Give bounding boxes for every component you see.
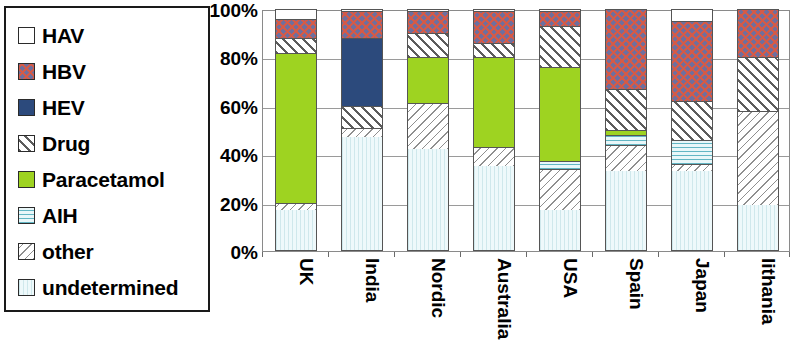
x-axis-label-lithania: lithania: [736, 258, 778, 325]
segment-australia-para[interactable]: [473, 57, 515, 147]
x-axis-label-uk: UK: [274, 258, 316, 285]
diagonal-hatch-square-icon: [18, 135, 35, 152]
segment-lithania-hbv[interactable]: [737, 9, 779, 57]
segment-uk-para[interactable]: [275, 53, 317, 203]
segment-spain-drug[interactable]: [605, 89, 647, 130]
segment-india-undetermined[interactable]: [341, 137, 383, 251]
segment-australia-drug[interactable]: [473, 43, 515, 58]
segment-usa-undetermined[interactable]: [539, 210, 581, 251]
segment-australia-other[interactable]: [473, 147, 515, 166]
segment-usa-drug[interactable]: [539, 26, 581, 67]
cyan-horizontal-lines-square-icon: [18, 207, 35, 224]
segment-uk-hav[interactable]: [275, 9, 317, 19]
segment-spain-undetermined[interactable]: [605, 171, 647, 251]
gray-diagonal-square-icon: [18, 243, 35, 260]
segment-japan-aih[interactable]: [671, 140, 713, 164]
segment-india-hbv[interactable]: [341, 11, 383, 38]
segment-india-other[interactable]: [341, 128, 383, 138]
pink-crosshatch-square-icon: [18, 63, 35, 80]
x-axis-label-india: India: [340, 258, 382, 302]
x-axis-label-spain: Spain: [604, 258, 646, 310]
segment-japan-other[interactable]: [671, 164, 713, 171]
x-tick-spain: [592, 252, 593, 257]
legend-label-paracetamol: Paracetamol: [42, 169, 165, 190]
segment-lithania-undetermined[interactable]: [737, 205, 779, 251]
segment-nordic-other[interactable]: [407, 103, 449, 149]
segment-usa-para[interactable]: [539, 67, 581, 161]
legend-label-hbv: HBV: [42, 61, 86, 82]
y-axis-tick-labels: 0%20%40%60%80%100%: [210, 0, 262, 252]
white-square-icon: [18, 27, 35, 44]
bar-lithania[interactable]: [737, 11, 779, 251]
segment-australia-undetermined[interactable]: [473, 166, 515, 251]
segment-uk-other[interactable]: [275, 203, 317, 210]
green-solid-square-icon: [18, 171, 35, 188]
segment-uk-undetermined[interactable]: [275, 210, 317, 251]
legend-item-undetermined: undetermined: [18, 269, 208, 305]
segment-japan-drug[interactable]: [671, 101, 713, 140]
bar-nordic[interactable]: [407, 11, 449, 251]
chart-legend: HAV HBV HEV Drug Paracetamol AIH other u…: [4, 6, 210, 312]
x-tick-nordic: [394, 252, 395, 257]
segment-spain-para[interactable]: [605, 130, 647, 135]
segment-india-drug[interactable]: [341, 106, 383, 128]
bar-australia[interactable]: [473, 11, 515, 251]
bar-top-edge-nordic: [407, 9, 449, 10]
segment-lithania-drug[interactable]: [737, 57, 779, 110]
bar-usa[interactable]: [539, 11, 581, 251]
legend-item-aih: AIH: [18, 197, 208, 233]
legend-item-other: other: [18, 233, 208, 269]
bar-top-edge-lithania: [737, 9, 779, 10]
bar-top-edge-spain: [605, 9, 647, 10]
segment-spain-aih[interactable]: [605, 135, 647, 145]
segment-usa-hbv[interactable]: [539, 11, 581, 26]
segment-spain-hbv[interactable]: [605, 9, 647, 89]
segment-spain-other[interactable]: [605, 145, 647, 172]
segment-nordic-drug[interactable]: [407, 33, 449, 57]
segment-lithania-other[interactable]: [737, 111, 779, 205]
segment-nordic-undetermined[interactable]: [407, 149, 449, 251]
segment-australia-hbv[interactable]: [473, 11, 515, 42]
x-tick-uk: [262, 252, 263, 257]
bar-uk[interactable]: [275, 11, 317, 251]
x-axis-category-labels: UKIndiaNordicAustraliaUSASpainJapanlitha…: [262, 252, 790, 349]
segment-usa-aih[interactable]: [539, 161, 581, 168]
segment-uk-drug[interactable]: [275, 38, 317, 53]
bar-top-edge-uk: [275, 9, 317, 10]
bar-japan[interactable]: [671, 11, 713, 251]
legend-label-other: other: [42, 241, 94, 262]
bar-india[interactable]: [341, 11, 383, 251]
bar-top-edge-australia: [473, 9, 515, 10]
bar-top-edge-usa: [539, 9, 581, 10]
x-tick-usa: [526, 252, 527, 257]
x-tick-india: [328, 252, 329, 257]
x-axis-label-australia: Australia: [472, 258, 514, 339]
legend-item-hev: HEV: [18, 89, 208, 125]
y-axis-tick-40: 40%: [220, 146, 258, 165]
bar-spain[interactable]: [605, 11, 647, 251]
segment-usa-other[interactable]: [539, 169, 581, 210]
navy-solid-square-icon: [18, 99, 35, 116]
segment-japan-hav[interactable]: [671, 9, 713, 21]
y-axis-tick-20: 20%: [220, 194, 258, 213]
segment-nordic-para[interactable]: [407, 57, 449, 103]
segment-uk-hbv[interactable]: [275, 19, 317, 38]
x-axis-label-nordic: Nordic: [406, 258, 448, 318]
y-axis-tick-100: 100%: [209, 1, 258, 20]
legend-label-hav: HAV: [42, 25, 84, 46]
segment-japan-hbv[interactable]: [671, 21, 713, 101]
pale-cyan-square-icon: [18, 279, 35, 296]
segment-japan-undetermined[interactable]: [671, 171, 713, 251]
legend-label-drug: Drug: [42, 133, 90, 154]
x-axis-label-usa: USA: [538, 258, 580, 298]
x-tick-australia: [460, 252, 461, 257]
segment-india-hev[interactable]: [341, 38, 383, 106]
x-axis-label-japan: Japan: [670, 258, 712, 313]
y-axis-tick-0: 0%: [231, 243, 258, 262]
legend-label-undetermined: undetermined: [42, 277, 178, 298]
segment-nordic-hbv[interactable]: [407, 11, 449, 33]
stacked-bar-chart: 0%20%40%60%80%100% UKIndiaNordicAustrali…: [210, 0, 792, 349]
legend-item-hbv: HBV: [18, 53, 208, 89]
legend-item-hav: HAV: [18, 17, 208, 53]
x-tick-japan: [658, 252, 659, 257]
